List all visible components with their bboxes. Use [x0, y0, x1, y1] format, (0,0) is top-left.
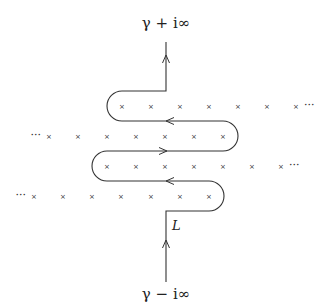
ellipsis-right: ··· — [289, 159, 300, 172]
pole-marker: × — [177, 103, 183, 111]
pole-marker: × — [104, 133, 110, 141]
pole-marker: × — [191, 163, 197, 171]
pole-marker: × — [148, 103, 154, 111]
pole-marker: × — [162, 163, 168, 171]
pole-marker: × — [278, 163, 284, 171]
pole-marker: × — [293, 103, 299, 111]
contour-label: L — [171, 218, 181, 233]
pole-marker: × — [206, 103, 212, 111]
pole-marker: × — [104, 163, 110, 171]
pole-marker: × — [220, 163, 226, 171]
pole-marker: × — [206, 193, 212, 201]
pole-marker: × — [162, 133, 168, 141]
pole-marker: × — [133, 133, 139, 141]
pole-marker: × — [31, 193, 37, 201]
pole-marker: × — [177, 193, 183, 201]
pole-marker: × — [119, 103, 125, 111]
top-limit-label: γ + i∞ — [142, 14, 190, 32]
pole-marker: × — [148, 193, 154, 201]
pole-marker: × — [60, 193, 66, 201]
ellipsis-right: ··· — [304, 99, 315, 112]
pole-marker: × — [220, 133, 226, 141]
pole-marker: × — [75, 133, 81, 141]
pole-marker: × — [235, 103, 241, 111]
pole-marker: × — [264, 103, 270, 111]
pole-marker: × — [118, 193, 124, 201]
pole-marker: × — [191, 133, 197, 141]
pole-marker: × — [46, 133, 52, 141]
pole-marker: × — [249, 163, 255, 171]
contour-diagram: ×××××××···×××××××···×××××××···×××××××···… — [0, 0, 332, 304]
ellipsis-left: ··· — [16, 189, 27, 202]
pole-marker: × — [89, 193, 95, 201]
bottom-limit-label: γ − i∞ — [142, 285, 190, 303]
ellipsis-left: ··· — [31, 129, 42, 142]
pole-marker: × — [133, 163, 139, 171]
